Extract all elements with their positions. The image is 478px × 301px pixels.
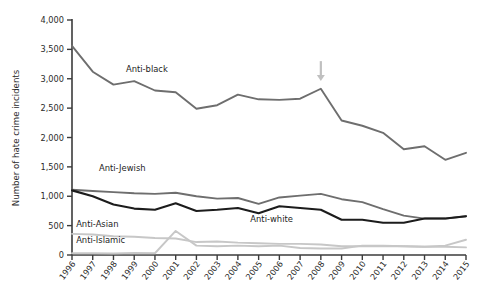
x-tick-label: 2007 bbox=[285, 259, 306, 282]
hate-crime-line-chart: Number of hate crime incidents 05001,000… bbox=[0, 0, 478, 301]
x-tick-label: 2015 bbox=[451, 259, 472, 282]
y-tick-label: 500 bbox=[48, 221, 64, 231]
y-tick-label: 3,000 bbox=[41, 74, 64, 84]
x-tick-label: 2002 bbox=[181, 259, 202, 282]
x-tick-label: 1996 bbox=[57, 259, 78, 282]
y-tick-label: 1,500 bbox=[41, 162, 64, 172]
series-label-anti-islamic: Anti-Islamic bbox=[76, 235, 125, 245]
x-tick-label: 2010 bbox=[347, 259, 368, 282]
y-tick-label: 1,000 bbox=[41, 191, 64, 201]
chart-annotations bbox=[317, 61, 325, 81]
x-tick-label: 2005 bbox=[243, 259, 264, 282]
series-label-anti-asian: Anti-Asian bbox=[76, 219, 118, 229]
series-label-anti-black: Anti-black bbox=[126, 64, 168, 74]
y-axis-title-text: Number of hate crime incidents bbox=[11, 69, 21, 206]
x-tick-label: 2011 bbox=[368, 259, 389, 282]
x-tick-label: 1998 bbox=[98, 259, 119, 282]
y-tick-label: 4,000 bbox=[41, 15, 64, 25]
arrow-2008-head bbox=[317, 75, 325, 81]
x-axis-ticks: 1996199719981999200020012002200320042005… bbox=[57, 255, 472, 282]
y-axis-title: Number of hate crime incidents bbox=[11, 69, 21, 206]
x-tick-label: 2008 bbox=[306, 259, 327, 282]
y-tick-label: 0 bbox=[59, 250, 64, 260]
x-tick-label: 2006 bbox=[264, 259, 285, 282]
x-tick-label: 2009 bbox=[326, 259, 347, 282]
x-tick-label: 2003 bbox=[202, 259, 223, 282]
series-label-anti-jewish: Anti-Jewish bbox=[99, 163, 146, 173]
series-label-anti-white: Anti-white bbox=[250, 214, 293, 224]
y-tick-label: 2,500 bbox=[41, 103, 64, 113]
y-tick-label: 3,500 bbox=[41, 44, 64, 54]
x-tick-label: 2004 bbox=[223, 259, 244, 282]
y-axis-ticks: 05001,0001,5002,0002,5003,0003,5004,000 bbox=[41, 15, 72, 260]
x-tick-label: 2012 bbox=[389, 259, 410, 282]
x-tick-label: 2013 bbox=[409, 259, 430, 282]
x-tick-label: 1997 bbox=[78, 259, 99, 282]
series-line-anti-islamic bbox=[72, 231, 466, 254]
chart-canvas: Number of hate crime incidents 05001,000… bbox=[0, 0, 478, 301]
x-tick-label: 1999 bbox=[119, 259, 140, 282]
y-tick-label: 2,000 bbox=[41, 133, 64, 143]
x-tick-label: 2001 bbox=[161, 259, 182, 282]
series-inline-labels: Anti-blackAnti-JewishAnti-whiteAnti-Asia… bbox=[76, 64, 293, 245]
x-tick-label: 2000 bbox=[140, 259, 161, 282]
x-tick-label: 2014 bbox=[430, 259, 451, 282]
